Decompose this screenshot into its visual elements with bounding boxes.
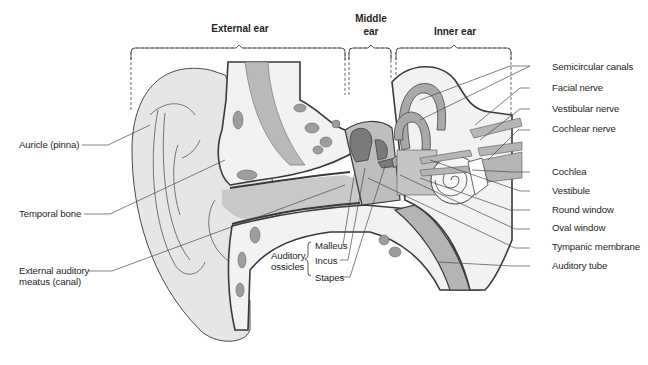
label-auditory-tube: Auditory tube [552, 260, 607, 271]
label-external-auditory-meatus-line1: External auditory [19, 265, 89, 276]
region-label-external-ear: External ear [200, 23, 280, 35]
label-external-auditory-meatus-line2: meatus (canal) [19, 276, 81, 287]
label-incus: Incus [315, 255, 337, 266]
ear-illustration [0, 0, 648, 365]
label-facial-nerve: Facial nerve [552, 82, 603, 93]
label-tympanic-membrane: Tympanic membrane [552, 241, 640, 252]
label-semicircular-canals: Semicircular canals [552, 61, 633, 72]
label-cochlear-nerve: Cochlear nerve [552, 123, 616, 134]
region-label-inner-ear: Inner ear [420, 26, 490, 38]
label-vestibular-nerve: Vestibular nerve [552, 103, 619, 114]
label-temporal-bone: Temporal bone [19, 208, 81, 219]
temporal-bone-upper [218, 62, 372, 185]
label-auditory-ossicles-line1: Auditory [271, 250, 305, 261]
label-stapes: Stapes [315, 272, 344, 283]
label-oval-window: Oval window [552, 222, 605, 233]
ossicles-brace [305, 242, 311, 276]
label-vestibule: Vestibule [552, 185, 590, 196]
ear-anatomy-diagram: External ear Middle ear Inner ear Auricl… [0, 0, 648, 365]
label-auricle: Auricle (pinna) [19, 139, 79, 150]
label-malleus: Malleus [315, 240, 347, 251]
region-label-middle-ear-line2: ear [350, 26, 392, 38]
label-cochlea: Cochlea [552, 166, 587, 177]
label-auditory-ossicles-line2: ossicles [271, 261, 304, 272]
region-label-middle-ear-line1: Middle [350, 13, 392, 25]
label-round-window: Round window [552, 204, 614, 215]
